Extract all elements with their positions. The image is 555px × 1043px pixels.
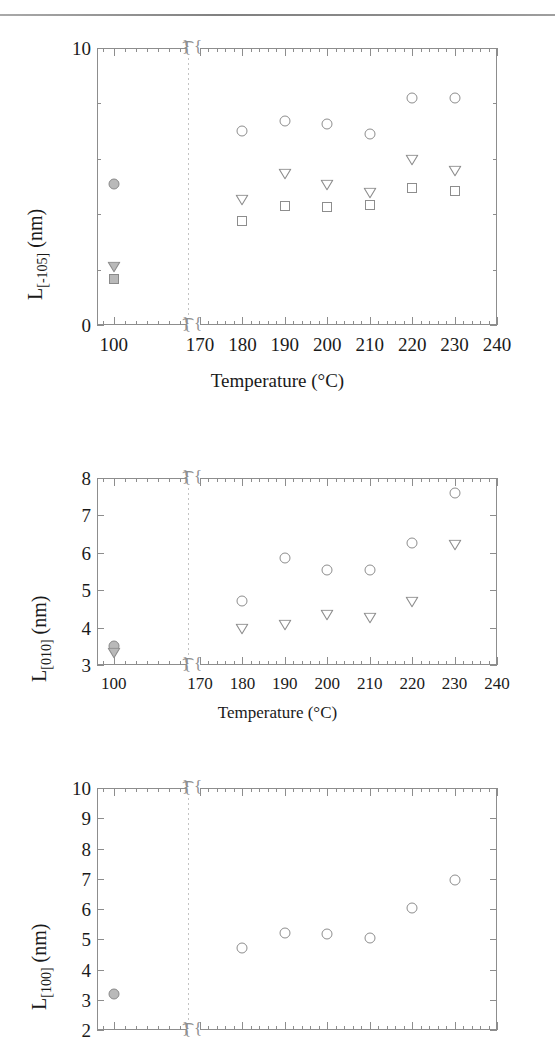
x-tick — [421, 1026, 422, 1030]
x-tick — [319, 48, 320, 52]
x-tick — [327, 478, 328, 486]
y-tick-major — [490, 48, 497, 49]
data-point-triangle — [363, 613, 376, 624]
x-tick — [455, 1022, 456, 1030]
y-title-base-1: L — [24, 288, 46, 300]
y-tick-label: 7 — [49, 869, 91, 888]
x-tick — [429, 48, 430, 52]
x-tick — [438, 48, 439, 52]
y-tick-major — [490, 970, 497, 971]
data-point-square — [322, 202, 332, 212]
axis-break-mark: } — [182, 315, 190, 332]
x-tick — [276, 321, 277, 325]
x-tick — [180, 661, 181, 665]
x-tick — [395, 788, 396, 792]
x-tick — [310, 788, 311, 792]
y-tick-label: 10 — [49, 39, 91, 58]
y-tick-major — [97, 909, 104, 910]
data-point-triangle — [406, 597, 419, 608]
x-tick — [234, 788, 235, 792]
x-tick — [463, 478, 464, 482]
x-tick — [344, 321, 345, 325]
x-tick — [268, 321, 269, 325]
x-tick — [327, 317, 328, 325]
x-tick — [370, 657, 371, 665]
x-tick-label: 230 — [442, 675, 468, 692]
data-point-triangle — [448, 166, 461, 177]
x-tick-label: 240 — [484, 675, 510, 692]
data-point-triangle — [236, 195, 249, 206]
y-tick-label: 6 — [49, 900, 91, 919]
x-tick — [268, 48, 269, 52]
x-tick — [327, 788, 328, 796]
x-tick — [412, 48, 413, 56]
y-tick-major — [97, 553, 104, 554]
y-title-sub-1: [-105] — [35, 253, 50, 288]
x-tick — [378, 478, 379, 482]
x-tick — [276, 478, 277, 482]
x-tick — [147, 1026, 148, 1030]
axis-break-mark: } — [182, 655, 190, 672]
x-tick — [463, 321, 464, 325]
x-tick — [114, 478, 115, 486]
x-tick — [387, 788, 388, 792]
x-tick — [463, 788, 464, 792]
y-title-base-3: L — [28, 998, 50, 1010]
x-tick — [395, 48, 396, 52]
x-tick — [395, 321, 396, 325]
y-tick-major — [490, 788, 497, 789]
x-tick — [208, 788, 209, 792]
x-tick — [285, 48, 286, 56]
x-tick — [136, 478, 137, 482]
y-title-base-2: L — [28, 670, 50, 682]
x-tick — [293, 788, 294, 792]
x-tick — [103, 788, 104, 792]
data-point-square — [109, 274, 119, 284]
x-tick — [242, 317, 243, 325]
x-tick — [234, 48, 235, 52]
x-tick — [114, 657, 115, 665]
y-tick-major — [97, 849, 104, 850]
x-tick — [217, 1026, 218, 1030]
x-tick — [472, 321, 473, 325]
data-point-circle — [322, 119, 333, 130]
data-point-circle — [407, 903, 418, 914]
x-tick — [302, 788, 303, 792]
y-tick-minor — [493, 103, 497, 104]
y-tick-major — [490, 939, 497, 940]
data-point-circle — [279, 553, 290, 564]
x-tick — [158, 478, 159, 482]
x-tick — [361, 1026, 362, 1030]
y-tick-major — [490, 515, 497, 516]
x-tick — [259, 788, 260, 792]
x-tick-label: 190 — [271, 335, 300, 354]
chart-panel-L010: L[010] (nm) ͡{͡{}{}{34567810017018019020… — [0, 430, 555, 730]
x-tick — [302, 1026, 303, 1030]
x-tick — [412, 1022, 413, 1030]
x-tick — [259, 661, 260, 665]
data-point-circle — [364, 565, 375, 576]
x-tick — [302, 321, 303, 325]
x-tick — [293, 1026, 294, 1030]
x-tick — [217, 48, 218, 52]
data-point-circle — [449, 487, 460, 498]
x-tick — [242, 48, 243, 56]
x-tick-label: 220 — [399, 675, 425, 692]
x-tick — [208, 478, 209, 482]
x-tick — [293, 321, 294, 325]
axis-break-mark: } — [182, 1020, 190, 1037]
x-tick — [169, 48, 170, 52]
x-tick — [412, 317, 413, 325]
x-tick — [497, 788, 498, 796]
x-tick — [242, 788, 243, 796]
x-tick — [361, 321, 362, 325]
x-tick — [429, 478, 430, 482]
y-tick-minor — [97, 159, 101, 160]
x-tick — [336, 1026, 337, 1030]
data-point-circle — [279, 928, 290, 939]
y-tick-major — [97, 665, 104, 666]
x-tick-label: 190 — [272, 675, 298, 692]
y-tick-minor — [493, 159, 497, 160]
x-tick — [302, 478, 303, 482]
x-tick — [497, 1022, 498, 1030]
